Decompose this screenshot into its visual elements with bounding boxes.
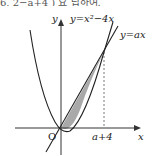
parabola-label: y=x²−4x — [69, 13, 114, 24]
function-graph: y y=x²−4x y=ax O a+4 x — [0, 0, 157, 156]
line-label: y=ax — [119, 29, 146, 40]
x-axis-label: x — [138, 131, 144, 142]
y-axis-label: y — [51, 13, 58, 24]
shaded-region — [61, 52, 104, 129]
origin-label: O — [48, 131, 56, 142]
marked-x-label: a+4 — [92, 131, 113, 142]
y-axis-arrow-icon — [58, 19, 64, 26]
